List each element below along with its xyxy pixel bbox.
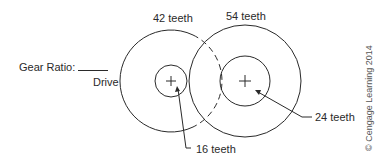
gear-ratio-label: Gear Ratio:	[19, 61, 108, 73]
right-inner-teeth-label: 24 teeth	[315, 111, 355, 123]
left-inner-teeth-label: 16 teeth	[196, 143, 236, 155]
leader-16-teeth	[178, 89, 191, 148]
gear-diagram	[0, 0, 379, 168]
left-outer-gear-hidden	[193, 35, 222, 127]
gear-ratio-blank	[78, 61, 108, 71]
right-center-mark-icon	[239, 75, 251, 87]
arrowhead-icon	[255, 90, 261, 95]
copyright-notice: © Cengage Learning 2014	[364, 45, 374, 151]
gear-ratio-text: Gear Ratio:	[19, 61, 75, 73]
left-center-mark-icon	[166, 76, 176, 86]
left-outer-teeth-label: 42 teeth	[153, 12, 193, 24]
leader-24-teeth	[258, 92, 312, 117]
arrowhead-icon	[175, 86, 180, 92]
right-outer-teeth-label: 54 teeth	[226, 10, 266, 22]
drive-label: Drive	[93, 76, 119, 88]
